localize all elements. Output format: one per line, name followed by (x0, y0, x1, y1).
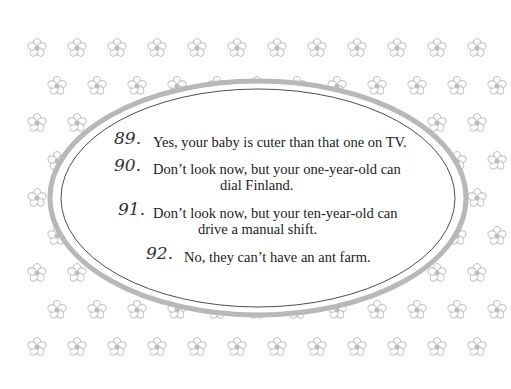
item-text: Don’t look now, but your one-year-old ca… (153, 161, 401, 178)
item-text: Yes, your baby is cuter than that one on… (153, 134, 407, 151)
item-number: 91. (118, 201, 145, 218)
item-number: 92. (146, 245, 173, 262)
item-number: 89. (114, 130, 141, 147)
item-text: No, they can’t have an ant farm. (184, 249, 371, 266)
item-text-cont: dial Finland. (220, 177, 293, 194)
item-text: Don’t look now, but your ten-year-old ca… (153, 205, 398, 222)
item-text-cont: drive a manual shift. (198, 221, 317, 238)
oval-frame (0, 0, 511, 389)
page: 89. Yes, your baby is cuter than that on… (0, 0, 511, 389)
item-number: 90. (114, 157, 141, 174)
